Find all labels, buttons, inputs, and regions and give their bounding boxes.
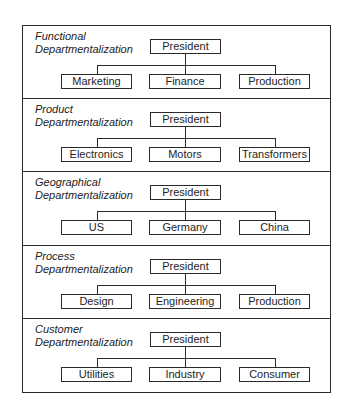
child-node-china: China	[239, 220, 310, 235]
child-node-industry: Industry	[149, 367, 221, 382]
president-node: President	[150, 259, 221, 274]
connector-horizontal	[97, 138, 276, 139]
connector-drop-right	[275, 285, 276, 294]
connector-vertical	[185, 200, 186, 220]
section-label: Customer Departmentalization	[35, 323, 133, 349]
connector-horizontal	[97, 358, 276, 359]
child-node-utilities: Utilities	[61, 367, 132, 382]
connector-drop-right	[275, 138, 276, 147]
connector-horizontal	[97, 285, 276, 286]
child-node-germany: Germany	[149, 220, 221, 235]
connector-drop-left	[97, 138, 98, 147]
connector-vertical	[185, 54, 186, 74]
connector-drop-left	[97, 65, 98, 74]
connector-drop-left	[97, 358, 98, 367]
connector-drop-left	[97, 211, 98, 220]
child-node-finance: Finance	[149, 74, 221, 89]
president-node: President	[150, 185, 221, 200]
connector-horizontal	[97, 211, 276, 212]
child-node-consumer: Consumer	[239, 367, 310, 382]
section-label: Product Departmentalization	[35, 103, 133, 129]
president-node: President	[150, 332, 221, 347]
child-node-motors: Motors	[149, 147, 221, 162]
section-customer: Customer Departmentalization President U…	[23, 318, 330, 393]
connector-drop-right	[275, 358, 276, 367]
child-node-us: US	[61, 220, 132, 235]
connector-drop-right	[275, 211, 276, 220]
section-label-line1: Geographical	[35, 176, 133, 189]
connector-drop-left	[97, 285, 98, 294]
connector-vertical	[185, 274, 186, 294]
child-node-engineering: Engineering	[149, 294, 221, 309]
section-label-line1: Product	[35, 103, 133, 116]
child-node-production: Production	[239, 74, 310, 89]
section-label-line2: Departmentalization	[35, 189, 133, 202]
child-node-electronics: Electronics	[61, 147, 132, 162]
section-label-line2: Departmentalization	[35, 336, 133, 349]
connector-vertical	[185, 127, 186, 147]
section-label-line2: Departmentalization	[35, 43, 133, 56]
section-label-line1: Customer	[35, 323, 133, 336]
child-node-production: Production	[239, 294, 310, 309]
section-functional: Functional Departmentalization President…	[23, 26, 330, 99]
section-label: Functional Departmentalization	[35, 30, 133, 56]
child-node-design: Design	[61, 294, 132, 309]
section-process: Process Departmentalization President De…	[23, 245, 330, 318]
section-label-line2: Departmentalization	[35, 263, 133, 276]
section-label: Geographical Departmentalization	[35, 176, 133, 202]
connector-vertical	[185, 347, 186, 367]
child-node-transformers: Transformers	[239, 147, 310, 162]
section-product: Product Departmentalization President El…	[23, 98, 330, 171]
president-node: President	[150, 39, 221, 54]
section-label-line1: Functional	[35, 30, 133, 43]
section-geographical: Geographical Departmentalization Preside…	[23, 171, 330, 245]
connector-drop-right	[275, 65, 276, 74]
president-node: President	[150, 112, 221, 127]
departmentalization-diagram: Functional Departmentalization President…	[22, 25, 331, 393]
section-label: Process Departmentalization	[35, 250, 133, 276]
section-label-line2: Departmentalization	[35, 116, 133, 129]
connector-horizontal	[97, 65, 276, 66]
section-label-line1: Process	[35, 250, 133, 263]
child-node-marketing: Marketing	[61, 74, 132, 89]
